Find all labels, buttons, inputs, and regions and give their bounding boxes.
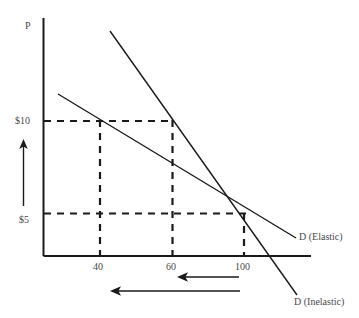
demand-curve-svg — [0, 0, 359, 318]
x-tick-label-40: 40 — [93, 261, 103, 272]
price-increase-up-arrow — [19, 139, 28, 206]
quantity-decrease-inelastic-left-arrow — [177, 272, 239, 282]
x-tick-label-100: 100 — [235, 261, 250, 272]
y-tick-label-5: $5 — [19, 214, 29, 225]
d-elastic-label: D (Elastic) — [299, 231, 343, 242]
d-elastic-curve — [58, 94, 296, 238]
y-tick-label-10: $10 — [15, 115, 30, 126]
d-inelastic-label: D (Inelastic) — [294, 296, 344, 307]
quantity-decrease-elastic-left-arrow — [110, 286, 240, 296]
diagram-canvas: P $10 $5 40 60 100 D (Elastic) D (Inelas… — [0, 0, 359, 318]
x-tick-label-60: 60 — [166, 261, 176, 272]
price-axis-label: P — [25, 20, 31, 31]
